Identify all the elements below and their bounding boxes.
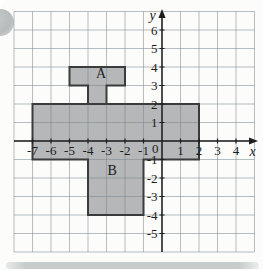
coordinate-plane: -7-6-5-4-3-2-11234-5-4-3-2-11234560xyAB <box>0 0 263 270</box>
page-edge-shadow <box>6 262 259 269</box>
y-tick-label: -4 <box>147 208 158 223</box>
y-axis-title: y <box>147 8 156 23</box>
x-tick-label: -6 <box>46 143 57 158</box>
y-tick-label: 6 <box>151 23 158 38</box>
x-tick-label: 2 <box>196 143 203 158</box>
y-tick-label: 5 <box>151 41 158 56</box>
x-tick-label: -4 <box>83 143 94 158</box>
y-tick-label: 3 <box>151 78 158 93</box>
region-label-b: B <box>107 163 116 178</box>
region-label-a: A <box>96 66 107 81</box>
x-tick-label: 1 <box>177 143 184 158</box>
y-tick-label: 4 <box>151 60 158 75</box>
y-tick-label: -2 <box>147 171 158 186</box>
origin-label: 0 <box>152 141 159 156</box>
x-tick-label: -7 <box>27 143 38 158</box>
x-tick-label: -3 <box>101 143 112 158</box>
x-tick-label: -2 <box>120 143 131 158</box>
y-tick-label: -5 <box>147 226 158 241</box>
textbook-figure-page: -7-6-5-4-3-2-11234-5-4-3-2-11234560xyAB <box>0 0 263 270</box>
y-axis-arrowhead-icon <box>158 9 165 18</box>
y-tick-label: 2 <box>151 97 158 112</box>
x-tick-label: 3 <box>214 143 221 158</box>
x-axis-title: x <box>248 144 256 159</box>
y-tick-label: -3 <box>147 189 158 204</box>
x-tick-label: -5 <box>64 143 75 158</box>
y-tick-label: 1 <box>151 115 158 130</box>
x-tick-label: 4 <box>233 143 240 158</box>
